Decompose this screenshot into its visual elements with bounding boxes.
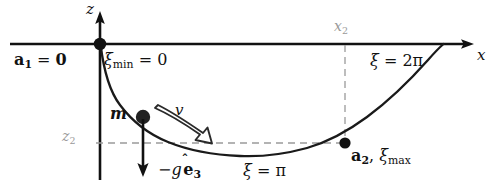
end-point-label: a2, ξmax: [351, 148, 411, 167]
a1-subscript: 1: [24, 58, 32, 71]
xi-2pi-label: ξ = 2π: [370, 53, 423, 69]
a2-comma: ,: [369, 146, 379, 165]
velocity-label: v: [175, 103, 183, 118]
gravity-vector-label: −g ̂e3: [158, 162, 201, 181]
gravity-e-subscript: 3: [193, 168, 201, 181]
x2-subscript: 2: [342, 25, 348, 36]
xi-2pi-equals: =: [379, 51, 403, 70]
gravity-g-symbol: g: [171, 160, 181, 179]
a1-value: 0: [56, 50, 67, 69]
xi-min-subscript: min: [113, 58, 134, 71]
xi-pi-equals: =: [252, 161, 276, 180]
a2-subscript: 2: [361, 154, 369, 167]
brachistochrone-figure: z x a1 = 0 ξmin = 0 ξ = 2π x2 z2 m v −g …: [0, 0, 501, 194]
xi-min-symbol: ξ: [104, 50, 113, 69]
xi-pi-value: π: [275, 161, 286, 180]
xi-min-value: 0: [157, 50, 167, 69]
xi-pi-label: ξ = π: [243, 163, 286, 179]
gravity-basis-vector: ̂e: [183, 160, 193, 179]
gravity-e-symbol: e: [183, 160, 193, 179]
xi-pi-symbol: ξ: [243, 161, 252, 180]
x-axis-label: x: [477, 48, 485, 63]
xi-min-label: ξmin = 0: [104, 52, 167, 71]
z2-subscript: 2: [69, 135, 75, 146]
gravity-minus-sign: −: [158, 160, 171, 179]
velocity-vector-arrow: [155, 105, 212, 144]
mass-label: m: [110, 106, 127, 122]
xi-max-symbol: ξ: [379, 146, 388, 165]
xi-2pi-value: 2π: [402, 51, 423, 70]
xi-max-subscript: max: [388, 154, 411, 167]
start-point-label: a1 = 0: [14, 52, 67, 71]
xi-2pi-symbol: ξ: [370, 51, 379, 70]
origin-point-marker: [94, 38, 106, 50]
x2-tick-label: x2: [334, 19, 348, 35]
x2-symbol: x: [334, 18, 342, 34]
a1-symbol: a: [14, 50, 24, 69]
z2-tick-label: z2: [62, 129, 75, 145]
xi-min-equals: =: [134, 50, 158, 69]
a2-symbol: a: [351, 146, 361, 165]
z-axis-label: z: [86, 2, 94, 17]
a1-equals: =: [32, 50, 56, 69]
endpoint-a2-marker: [339, 137, 350, 148]
